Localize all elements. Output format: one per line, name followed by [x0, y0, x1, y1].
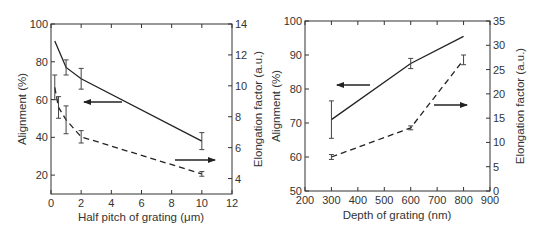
- x-tick-label: 2: [78, 197, 84, 209]
- y2-tick-label: 5: [493, 161, 499, 173]
- elongation-line: [55, 87, 202, 174]
- x-tick-label: 12: [226, 197, 238, 209]
- right-plot-frame: [305, 21, 490, 191]
- y2-tick-label: 35: [493, 15, 505, 27]
- y2-tick-label: 8: [235, 111, 241, 123]
- y-tick-label: 100: [284, 15, 302, 27]
- left-y2-label: Elongation factor (a.u.): [252, 51, 264, 168]
- y-tick-label: 50: [290, 185, 302, 197]
- y-tick-label: 40: [36, 131, 48, 143]
- y2-tick-label: 20: [493, 88, 505, 100]
- x-tick-label: 300: [322, 194, 340, 206]
- right-x-label: Depth of grating (nm): [343, 209, 452, 221]
- x-tick-label: 4: [108, 197, 114, 209]
- x-tick-label: 700: [428, 194, 446, 206]
- y2-tick-label: 10: [235, 80, 247, 92]
- y-tick-label: 60: [36, 94, 48, 106]
- y2-tick-label: 4: [235, 173, 241, 185]
- right-y2-axis: 05101520253035: [486, 15, 505, 197]
- figure: 024681012 20406080100 468101214 Half pit…: [0, 0, 544, 234]
- left-x-axis: 024681012: [48, 24, 238, 209]
- y-tick-label: 90: [290, 49, 302, 61]
- left-chart: 024681012 20406080100 468101214 Half pit…: [16, 18, 264, 223]
- right-x-axis: 200300400500600700800900: [296, 21, 499, 206]
- x-tick-label: 400: [349, 194, 367, 206]
- y-tick-label: 70: [290, 117, 302, 129]
- y2-tick-label: 30: [493, 39, 505, 51]
- x-tick-label: 10: [196, 197, 208, 209]
- elongation-line: [331, 60, 463, 157]
- y2-tick-label: 6: [235, 142, 241, 154]
- y-tick-label: 60: [290, 151, 302, 163]
- y-tick-label: 80: [290, 83, 302, 95]
- left-y-label: Alignment (%): [16, 73, 28, 145]
- y2-tick-label: 10: [493, 136, 505, 148]
- right-y-label: Alignment (%): [270, 70, 282, 142]
- left-plot-frame: [51, 24, 232, 194]
- y-tick-label: 100: [30, 18, 48, 30]
- y2-tick-label: 15: [493, 112, 505, 124]
- right-series: [329, 36, 467, 159]
- x-tick-label: 500: [375, 194, 393, 206]
- alignment-line: [331, 36, 463, 119]
- left-x-label: Half pitch of grating (μm): [78, 211, 204, 223]
- x-tick-label: 6: [138, 197, 144, 209]
- y-tick-label: 20: [36, 169, 48, 181]
- y2-tick-label: 0: [493, 185, 499, 197]
- left-series: [52, 41, 215, 176]
- x-tick-label: 600: [402, 194, 420, 206]
- x-tick-label: 0: [48, 197, 54, 209]
- left-y2-axis: 468101214: [228, 18, 247, 185]
- right-chart: 200300400500600700800900 5060708090100 0…: [270, 15, 526, 221]
- x-tick-label: 800: [454, 194, 472, 206]
- right-y2-label: Elongation factor (a.u.): [514, 48, 526, 165]
- y2-tick-label: 12: [235, 49, 247, 61]
- y2-tick-label: 14: [235, 18, 247, 30]
- x-tick-label: 8: [169, 197, 175, 209]
- y2-tick-label: 25: [493, 64, 505, 76]
- y-tick-label: 80: [36, 56, 48, 68]
- alignment-line: [55, 41, 202, 141]
